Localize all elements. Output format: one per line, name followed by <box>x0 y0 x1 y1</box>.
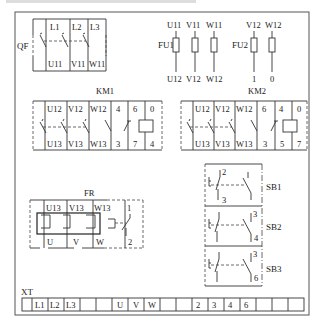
fu2-top-w12: W12 <box>265 20 282 30</box>
km2-top-w12: W12 <box>236 104 253 114</box>
sb3-top-3: 3 <box>253 249 257 259</box>
km2-bot-3: 3 <box>263 139 267 149</box>
qf-bot-w11: W11 <box>89 59 105 69</box>
km2-bot-u13: U13 <box>195 139 210 149</box>
fr-bot-w: W <box>96 237 104 247</box>
fr-top-v13: V13 <box>69 203 84 213</box>
km2-top-v12: V12 <box>215 104 230 114</box>
fr-top-w13: W13 <box>94 203 111 213</box>
fu1-top-u11: U11 <box>167 20 181 30</box>
sb1-bot-3: 3 <box>222 195 226 205</box>
qf-top-l2: L2 <box>72 22 81 32</box>
fu1-top-v11: V11 <box>186 20 200 30</box>
fu2-fuses: V12 W12 FU2 1 0 <box>232 20 282 84</box>
km1-contactor: KM1 U12 V12 W12 4 6 0 U13 V13 W13 3 7 4 <box>33 86 162 150</box>
km1-top-w12: W12 <box>90 104 107 114</box>
xt-cell-u: U <box>117 300 123 310</box>
sb3-bot-6: 6 <box>254 273 258 283</box>
sb2-top-3: 3 <box>253 209 257 219</box>
pushbutton-group: 2 3 SB1 3 4 SB2 3 6 SB3 <box>205 164 282 286</box>
km2-top-0: 0 <box>297 104 301 114</box>
fr-bot-2: 2 <box>128 237 132 247</box>
km2-bot-7: 7 <box>297 139 301 149</box>
km1-bot-v13: V13 <box>68 139 83 149</box>
km1-bot-w13: W13 <box>90 139 107 149</box>
sb3-label: SB3 <box>266 264 282 274</box>
xt-cell-6: 6 <box>244 300 248 310</box>
km1-top-0: 0 <box>150 104 154 114</box>
fu2-bot-1: 1 <box>252 74 256 84</box>
xt-terminal-strip: XT L1 L2 L3 U V W 2 3 4 6 <box>21 287 304 311</box>
sb1-button: 2 3 SB1 <box>209 167 282 205</box>
qf-top-l3: L3 <box>90 22 99 32</box>
qf-top-l1: L1 <box>50 22 59 32</box>
km1-bot-4: 4 <box>150 139 155 149</box>
xt-cell-l1: L1 <box>35 300 44 310</box>
sb2-button: 3 4 SB2 <box>209 209 282 243</box>
km2-bot-5: 5 <box>280 139 284 149</box>
km2-top-6: 6 <box>262 104 266 114</box>
fr-bot-v: V <box>73 237 80 247</box>
km1-bot-7: 7 <box>133 139 137 149</box>
fu2-label: FU2 <box>232 40 248 50</box>
sb3-button: 3 6 SB3 <box>209 249 282 283</box>
km2-contactor: KM2 U12 V12 W12 6 4 0 U13 V13 W13 3 5 7 <box>181 86 307 150</box>
sb2-bot-4: 4 <box>254 233 259 243</box>
xt-cell-l2: L2 <box>50 300 59 310</box>
outer-frame <box>15 12 309 315</box>
fu1-label: FU1 <box>158 40 174 50</box>
sb1-top-2: 2 <box>222 167 226 177</box>
fu2-top-v12: V12 <box>246 20 261 30</box>
km1-top-6: 6 <box>133 104 137 114</box>
xt-cell-v: V <box>133 300 140 310</box>
km1-top-4: 4 <box>116 104 121 114</box>
xt-cell-4: 4 <box>228 300 233 310</box>
km2-top-4: 4 <box>279 104 284 114</box>
sb1-label: SB1 <box>266 182 282 192</box>
qf-breaker: QF L1 L2 L3 U11 V11 W11 <box>17 19 106 71</box>
xt-cell-3: 3 <box>212 300 216 310</box>
km1-top-u12: U12 <box>47 104 62 114</box>
km2-bot-v13: V13 <box>215 139 230 149</box>
qf-label: QF <box>17 41 29 51</box>
xt-label: XT <box>21 287 33 297</box>
fu1-bot-u12: U12 <box>167 74 182 84</box>
fr-label: FR <box>84 188 95 198</box>
fu1-top-w11: W11 <box>206 20 222 30</box>
cropped-caption-fragment <box>6 0 196 3</box>
fu1-bot-v12: V12 <box>186 74 201 84</box>
fr-top-u13: U13 <box>46 203 61 213</box>
km1-bot-3: 3 <box>116 139 120 149</box>
km2-bot-w13: W13 <box>236 139 253 149</box>
fr-bot-u: U <box>47 237 53 247</box>
fr-top-1: 1 <box>127 203 131 213</box>
qf-bot-u11: U11 <box>48 59 62 69</box>
qf-bot-v11: V11 <box>71 59 85 69</box>
fu1-bot-w12: W12 <box>206 74 223 84</box>
km1-label: KM1 <box>96 86 114 96</box>
km1-bot-u13: U13 <box>47 139 62 149</box>
xt-cell-l3: L3 <box>66 300 75 310</box>
wiring-diagram: QF L1 L2 L3 U11 V11 W11 U11 V11 W11 FU1 … <box>0 0 320 327</box>
fu1-fuses: U11 V11 W11 FU1 U12 V12 W12 <box>158 20 223 84</box>
xt-cell-2: 2 <box>196 300 200 310</box>
km2-top-u12: U12 <box>195 104 210 114</box>
sb2-label: SB2 <box>266 222 282 232</box>
fr-thermal-relay: FR U13 V13 W13 1 U V W 2 <box>30 188 143 248</box>
fu2-bot-0: 0 <box>270 74 274 84</box>
km2-label: KM2 <box>248 86 266 96</box>
km1-top-v12: V12 <box>68 104 83 114</box>
xt-cell-w: W <box>148 300 156 310</box>
